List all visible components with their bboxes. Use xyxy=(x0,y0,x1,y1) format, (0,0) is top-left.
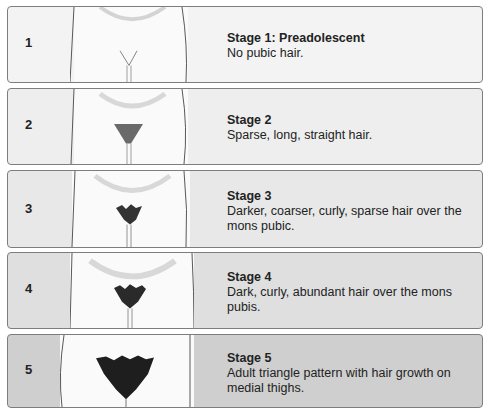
stage-number: 2 xyxy=(25,117,32,132)
stage-number: 3 xyxy=(25,201,32,216)
stage-description: No pubic hair. xyxy=(227,46,472,61)
stage-text: Stage 4 Dark, curly, abundant hair over … xyxy=(227,270,472,315)
stage-number: 5 xyxy=(25,362,32,377)
stage-title: Stage 5 xyxy=(227,351,472,366)
stage-number: 4 xyxy=(25,281,32,296)
stage-description: Darker, coarser, curly, sparse hair over… xyxy=(227,204,472,234)
stage-5-illustration xyxy=(56,335,198,407)
stage-3-illustration xyxy=(70,171,194,247)
stage-panel-2: 2 Stage 2 Sparse, long, straight hair. xyxy=(7,88,483,165)
stage-title: Stage 4 xyxy=(227,270,472,285)
stage-text: Stage 3 Darker, coarser, curly, sparse h… xyxy=(227,189,472,234)
stage-text: Stage 5 Adult triangle pattern with hair… xyxy=(227,351,472,396)
stage-1-illustration xyxy=(70,7,194,82)
stage-text: Stage 2 Sparse, long, straight hair. xyxy=(227,113,472,143)
stage-description: Sparse, long, straight hair. xyxy=(227,128,472,143)
stage-panel-1: 1 Stage 1: Preadolescent No pubic hair. xyxy=(7,6,483,83)
stage-title: Stage 1: Preadolescent xyxy=(227,31,472,46)
stage-4-illustration xyxy=(70,253,194,328)
stage-title: Stage 3 xyxy=(227,189,472,204)
stage-description: Dark, curly, abundant hair over the mons… xyxy=(227,285,472,315)
stage-panel-5: 5 Stage 5 Adult triangle pattern with ha… xyxy=(7,334,483,408)
stage-text: Stage 1: Preadolescent No pubic hair. xyxy=(227,31,472,61)
stage-2-illustration xyxy=(70,89,194,164)
stage-panel-4: 4 Stage 4 Dark, curly, abundant hair ove… xyxy=(7,252,483,329)
stage-panel-3: 3 Stage 3 Darker, coarser, curly, sparse… xyxy=(7,170,483,248)
stage-title: Stage 2 xyxy=(227,113,472,128)
stage-number: 1 xyxy=(25,35,32,50)
stage-description: Adult triangle pattern with hair growth … xyxy=(227,366,472,396)
